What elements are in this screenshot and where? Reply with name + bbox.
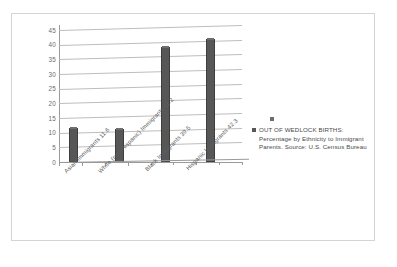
bar-top-face — [207, 38, 214, 40]
y-axis-tick-label: 15 — [32, 115, 56, 122]
x-axis-tick — [105, 163, 106, 166]
x-axis-tick — [196, 162, 197, 165]
y-axis-tick-label: 0 — [32, 159, 56, 166]
y-axis-tick-label: 45 — [32, 27, 56, 34]
legend-marker-artifact-icon — [270, 117, 274, 121]
x-axis-tick — [173, 162, 174, 165]
y-axis-tick-label: 5 — [32, 144, 56, 151]
x-axis-tick — [128, 163, 129, 166]
y-axis-tick-label: 25 — [32, 85, 56, 92]
bar[interactable] — [161, 47, 170, 162]
y-axis-tick-label: 10 — [32, 129, 56, 136]
bar[interactable] — [69, 128, 78, 162]
plot-area — [59, 30, 242, 163]
y-axis-tick-label: 40 — [32, 41, 56, 48]
bar[interactable] — [115, 129, 124, 162]
legend-item-label: OUT OF WEDLOCK BIRTHS: Percentage by Eth… — [259, 126, 368, 152]
chart-frame: 051015202530354045 Asian Immigrants 11.6… — [11, 13, 375, 241]
x-axis-tick — [59, 163, 60, 166]
bar-top-face — [162, 46, 169, 48]
y-axis-tick-label: 20 — [32, 100, 56, 107]
y-axis-tick-label: 30 — [32, 71, 56, 78]
x-axis-tick — [82, 163, 83, 166]
chart-legend: OUT OF WEDLOCK BIRTHS: Percentage by Eth… — [252, 126, 368, 152]
bar-top-face — [70, 127, 77, 129]
y-axis: 051015202530354045 — [32, 24, 56, 164]
x-axis-tick — [219, 162, 220, 165]
legend-swatch-icon — [252, 128, 256, 132]
x-axis-tick — [242, 162, 243, 165]
bar-top-face — [116, 128, 123, 130]
bar-series — [59, 30, 242, 163]
x-axis-tick — [151, 162, 152, 165]
y-axis-tick-label: 35 — [32, 56, 56, 63]
bar[interactable] — [206, 39, 215, 162]
x-axis-ticks — [59, 163, 249, 168]
legend-item: OUT OF WEDLOCK BIRTHS: Percentage by Eth… — [252, 126, 368, 152]
